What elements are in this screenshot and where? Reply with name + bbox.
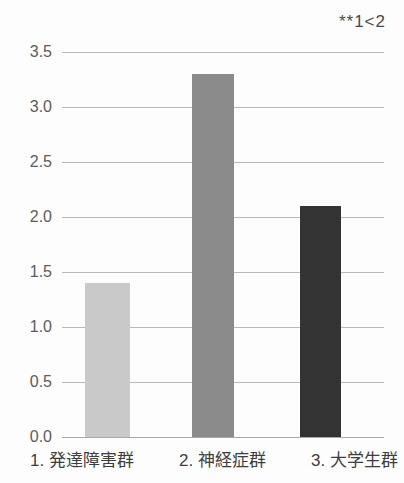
y-axis-tick-label: 1.0	[4, 318, 52, 336]
gridline-baseline-0-0	[62, 437, 384, 438]
significance-annotation: **1<2	[339, 12, 386, 32]
bar-1-developmental-disorder-group	[85, 283, 130, 437]
x-axis-label-2: 2. 神経症群	[179, 446, 266, 471]
bar-3-university-student-group	[300, 206, 341, 437]
y-axis-tick-label: 0.0	[4, 428, 52, 446]
bar-chart: **1<2 0.0 0.5 1.0 1.5 2.0 2.5 3.0 3.5 1.…	[0, 0, 404, 483]
x-axis-labels: 1. 発達障害群 2. 神経症群 3. 大学生群	[30, 446, 398, 471]
y-axis-tick-label: 3.5	[4, 43, 52, 61]
y-axis-tick-label: 1.5	[4, 263, 52, 281]
y-axis-tick-label: 0.5	[4, 373, 52, 391]
y-axis-tick-label: 2.5	[4, 153, 52, 171]
y-axis-tick-label: 2.0	[4, 208, 52, 226]
gridline-3-5	[62, 52, 384, 53]
x-axis-label-1: 1. 発達障害群	[30, 446, 134, 471]
bar-2-neurosis-group	[192, 74, 234, 437]
x-axis-label-3: 3. 大学生群	[311, 446, 398, 471]
y-axis-tick-label: 3.0	[4, 98, 52, 116]
plot-area	[62, 52, 384, 437]
